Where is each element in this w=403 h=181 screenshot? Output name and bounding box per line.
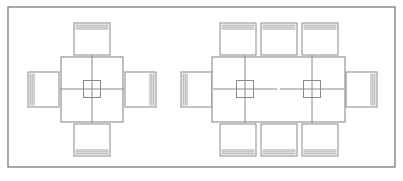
chair-seat-outline	[74, 23, 110, 55]
chair-seat-outline	[181, 72, 212, 107]
chair-seat-outline	[220, 23, 256, 55]
chair-south-2[interactable]	[261, 124, 297, 156]
chair-seat-outline	[261, 23, 297, 55]
chair-north-3[interactable]	[302, 23, 338, 55]
chair-north-1[interactable]	[220, 23, 256, 55]
chair-seat-outline	[302, 23, 338, 55]
chair-seat-outline	[302, 124, 338, 156]
chair-north[interactable]	[74, 23, 110, 55]
chair-south-1[interactable]	[220, 124, 256, 156]
plan-canvas	[0, 0, 403, 181]
chair-seat-outline	[28, 72, 59, 107]
chair-seat-outline	[125, 72, 156, 107]
furniture-plan-drawing	[0, 0, 403, 181]
chair-seat-outline	[261, 124, 297, 156]
chair-west[interactable]	[28, 72, 59, 107]
chair-east[interactable]	[125, 72, 156, 107]
chair-north-2[interactable]	[261, 23, 297, 55]
chair-east[interactable]	[346, 72, 377, 107]
chair-seat-outline	[74, 124, 110, 156]
chair-south[interactable]	[74, 124, 110, 156]
chair-seat-outline	[346, 72, 377, 107]
chair-west[interactable]	[181, 72, 212, 107]
chair-south-3[interactable]	[302, 124, 338, 156]
chair-seat-outline	[220, 124, 256, 156]
